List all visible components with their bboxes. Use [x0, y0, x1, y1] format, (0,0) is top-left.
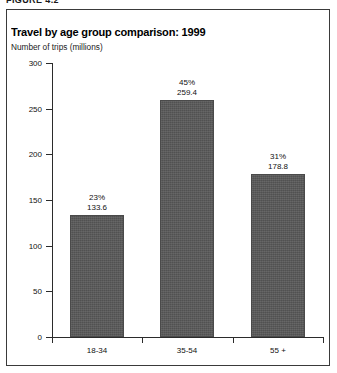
bar-percent-text: 23%: [57, 193, 137, 203]
y-tick: [46, 291, 52, 292]
bar-percent-text: 31%: [238, 152, 318, 162]
bar-value-label: 23%133.6: [57, 193, 137, 212]
y-tick-label: 100: [29, 241, 42, 250]
y-tick: [46, 63, 52, 64]
y-axis-line: [52, 63, 53, 338]
bar-value-label: 45%259.4: [147, 78, 227, 97]
category-label: 18-34: [57, 346, 137, 355]
bar-number-text: 133.6: [57, 203, 137, 213]
category-label: 55 +: [238, 346, 318, 355]
bar-number-text: 178.8: [238, 162, 318, 172]
x-axis-line: [52, 337, 323, 338]
y-tick: [46, 154, 52, 155]
bar: [251, 174, 305, 337]
x-tick: [323, 337, 324, 343]
category-label: 35-54: [147, 346, 227, 355]
y-tick-label: 0: [38, 333, 42, 342]
y-tick-label: 50: [33, 287, 42, 296]
figure-panel: FIGURE 4.2 Travel by age group compariso…: [0, 0, 337, 373]
bar-percent-text: 45%: [147, 78, 227, 88]
y-tick-label: 200: [29, 150, 42, 159]
y-tick: [46, 109, 52, 110]
bar-chart-plot: 050100150200250300 23%133.645%259.431%17…: [0, 0, 337, 373]
bar-number-text: 259.4: [147, 88, 227, 98]
bar: [70, 215, 124, 337]
y-tick-label: 250: [29, 104, 42, 113]
y-tick-label: 150: [29, 196, 42, 205]
x-tick: [52, 337, 53, 343]
x-tick: [142, 337, 143, 343]
x-tick: [233, 337, 234, 343]
y-tick: [46, 246, 52, 247]
y-tick: [46, 200, 52, 201]
bar: [160, 100, 214, 337]
y-tick-label: 300: [29, 59, 42, 68]
bar-value-label: 31%178.8: [238, 152, 318, 171]
